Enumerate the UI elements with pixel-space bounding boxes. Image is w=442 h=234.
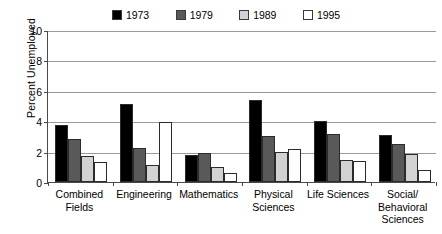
bar-1979 xyxy=(198,153,211,182)
y-tick-mark-4 xyxy=(44,122,48,123)
y-tick-label-4: 4 xyxy=(36,117,42,128)
bar-1973 xyxy=(314,121,327,182)
y-tick-mark-10 xyxy=(44,31,48,32)
legend-item-1973: 1973 xyxy=(112,10,149,21)
bar-1973 xyxy=(55,125,68,182)
plot-area: 0246810 xyxy=(47,31,435,183)
x-tick-mark xyxy=(242,182,243,186)
y-tick-label-2: 2 xyxy=(36,147,42,158)
bar-1973 xyxy=(120,104,133,182)
x-tick-mark xyxy=(113,182,114,186)
x-tick-mark xyxy=(307,182,308,186)
unemployment-bar-chart: 1973 1979 1989 1995 Percent Unemployed 0… xyxy=(0,0,442,234)
legend-label-1995: 1995 xyxy=(317,10,340,21)
legend-label-1979: 1979 xyxy=(190,10,213,21)
x-tick-mark xyxy=(48,182,49,186)
x-axis-label: Mathematics xyxy=(176,188,241,201)
bar-1989 xyxy=(81,156,94,182)
y-tick-label-0: 0 xyxy=(36,178,42,189)
legend-item-1979: 1979 xyxy=(176,10,213,21)
bar-1973 xyxy=(249,100,262,182)
bar-1973 xyxy=(379,135,392,182)
x-axis-label: Physical Sciences xyxy=(241,188,306,213)
bar-1979 xyxy=(392,144,405,182)
x-tick-mark xyxy=(436,182,437,186)
legend-swatch-1995 xyxy=(303,10,313,20)
bar-group xyxy=(185,31,237,182)
bar-1995 xyxy=(159,122,172,182)
bar-1973 xyxy=(185,155,198,182)
bar-1979 xyxy=(327,134,340,182)
legend-label-1973: 1973 xyxy=(126,10,149,21)
legend-item-1989: 1989 xyxy=(239,10,276,21)
bar-1995 xyxy=(94,162,107,182)
x-axis-label: Combined Fields xyxy=(47,188,112,213)
legend-item-1995: 1995 xyxy=(303,10,340,21)
bar-1989 xyxy=(275,152,288,182)
legend-swatch-1973 xyxy=(112,10,122,20)
bar-1979 xyxy=(68,139,81,182)
bar-1995 xyxy=(418,170,431,182)
bar-1989 xyxy=(146,165,159,182)
bar-group xyxy=(314,31,366,182)
legend-swatch-1979 xyxy=(176,10,186,20)
y-tick-mark-2 xyxy=(44,153,48,154)
x-axis-label: Social/ Behavioral Sciences xyxy=(370,188,435,226)
bar-group xyxy=(379,31,431,182)
x-tick-mark xyxy=(371,182,372,186)
bar-1989 xyxy=(340,160,353,182)
y-tick-mark-6 xyxy=(44,92,48,93)
legend-swatch-1989 xyxy=(239,10,249,20)
chart-legend: 1973 1979 1989 1995 xyxy=(112,8,340,22)
x-axis-label: Life Sciences xyxy=(306,188,371,201)
bar-1995 xyxy=(353,161,366,182)
x-tick-mark xyxy=(177,182,178,186)
x-axis-label: Engineering xyxy=(112,188,177,201)
bar-1989 xyxy=(211,167,224,182)
y-tick-label-6: 6 xyxy=(36,86,42,97)
bar-1979 xyxy=(262,136,275,182)
bar-group xyxy=(120,31,172,182)
bar-group xyxy=(249,31,301,182)
bar-group xyxy=(55,31,107,182)
y-tick-label-8: 8 xyxy=(36,56,42,67)
bar-1995 xyxy=(224,173,237,182)
y-tick-mark-8 xyxy=(44,61,48,62)
bar-1989 xyxy=(405,154,418,182)
legend-label-1989: 1989 xyxy=(253,10,276,21)
bar-1995 xyxy=(288,149,301,182)
bar-1979 xyxy=(133,148,146,182)
y-tick-label-10: 10 xyxy=(30,26,42,37)
